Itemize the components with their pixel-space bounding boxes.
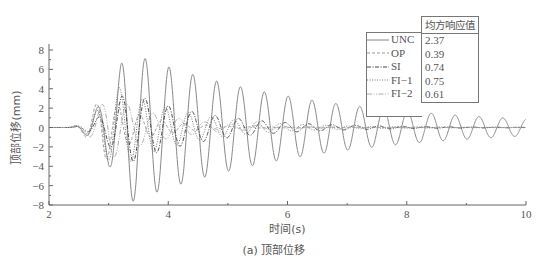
figure-caption: (a) 顶部位移 [0, 241, 548, 257]
legend-value-si: 0.74 [422, 61, 478, 75]
legend-header: 均方响应值 [422, 17, 478, 34]
y-tick-label: 2 [39, 102, 45, 114]
legend-swatch-dashdotdot [367, 92, 389, 96]
legend-swatch-dashed [367, 51, 389, 55]
y-tick-label: 8 [39, 44, 45, 56]
x-tick-label: 8 [404, 208, 410, 220]
series-line-fi-2 [49, 104, 526, 157]
legend-swatch-dotted [367, 78, 389, 82]
x-axis-title: 时间(s) [269, 223, 305, 236]
legend-key-unc: UNC [367, 33, 421, 47]
legend-value-op: 0.39 [422, 48, 478, 62]
y-axis-title: 顶部位移(mm) [9, 90, 23, 164]
series-line-si [49, 96, 526, 161]
legend-value-fi2: 0.61 [422, 88, 478, 102]
legend-swatch-dashdot [367, 65, 389, 69]
legend-key-fi1: FI−1 [367, 74, 421, 88]
legend: 均方响应值 2.37 0.39 0.74 0.75 0.61 [421, 16, 479, 103]
x-tick-label: 6 [285, 208, 291, 220]
y-tick-label: −8 [32, 199, 44, 211]
legend-key-fi2: FI−2 [367, 87, 421, 101]
legend-keys: UNC OP SI FI−1 FI−2 [367, 33, 421, 101]
legend-key-op: OP [367, 47, 421, 61]
legend-key-si: SI [367, 60, 421, 74]
y-tick-label: −2 [32, 141, 44, 153]
y-tick-label: 6 [39, 63, 45, 75]
legend-swatch-solid [367, 38, 389, 42]
x-tick-label: 2 [46, 208, 52, 220]
x-tick-label: 10 [521, 208, 533, 220]
y-tick-label: 0 [39, 122, 45, 134]
y-tick-label: 4 [39, 83, 45, 95]
x-tick-label: 4 [166, 208, 172, 220]
legend-value-unc: 2.37 [422, 34, 478, 48]
y-tick-label: −6 [32, 180, 44, 192]
legend-values: 均方响应值 2.37 0.39 0.74 0.75 0.61 [422, 17, 478, 102]
legend-value-fi1: 0.75 [422, 75, 478, 89]
y-tick-label: −4 [32, 160, 44, 172]
